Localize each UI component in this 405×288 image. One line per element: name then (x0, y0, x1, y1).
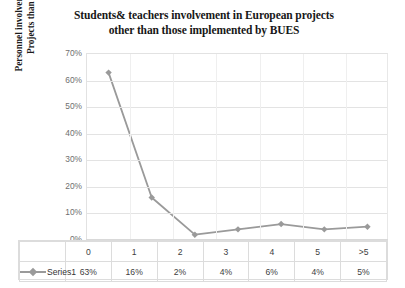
data-point-marker->5 (364, 224, 370, 230)
chart-data-table: 012345>5 Series1 63%16%2%4%6%4%5% (18, 240, 388, 280)
gridline-vertical (260, 54, 261, 239)
gridline-horizontal (87, 160, 387, 161)
y-tick-label-20: 20% (48, 181, 82, 191)
table-value-cell-4: 6% (249, 262, 295, 282)
gridline-horizontal (87, 107, 387, 108)
series-line-path (109, 73, 368, 235)
table-row-categories: 012345>5 (20, 242, 387, 262)
y-axis-title-line-2: Projects than those within BUES (25, 0, 37, 86)
gridline-vertical (216, 54, 217, 239)
table-value-cell-5: 4% (295, 262, 341, 282)
gridline-horizontal (87, 134, 387, 135)
gridline-horizontal (87, 213, 387, 214)
gridline-horizontal (87, 187, 387, 188)
gridline-vertical (130, 54, 131, 239)
data-point-marker-5 (321, 226, 327, 232)
legend-entry-series1: Series1 (20, 262, 66, 282)
legend-label-series1: Series1 (47, 267, 76, 277)
legend-line-marker-icon (20, 267, 46, 276)
table-category-cell-4: 4 (249, 242, 295, 262)
gridline-horizontal (87, 81, 387, 82)
y-tick-label-30: 30% (48, 154, 82, 164)
table-category-cell-6: >5 (341, 242, 387, 262)
chart-title: Students& teachers involvement in Europe… (38, 8, 370, 38)
y-tick-label-70: 70% (48, 48, 82, 58)
gridline-vertical (303, 54, 304, 239)
table-category-cell-3: 3 (203, 242, 249, 262)
series-line-series1 (87, 54, 389, 240)
table-value-cell-6: 5% (341, 262, 387, 282)
gridline-vertical (173, 54, 174, 239)
table-row-series1: Series1 63%16%2%4%6%4%5% (20, 262, 387, 282)
table-category-cell-0: 0 (65, 242, 111, 262)
y-tick-label-40: 40% (48, 128, 82, 138)
table-value-cell-1: 16% (111, 262, 157, 282)
chart-container: Students& teachers involvement in Europe… (0, 0, 405, 288)
chart-title-line-2: other than those implemented by BUES (38, 23, 370, 38)
chart-title-line-1: Students& teachers involvement in Europe… (74, 9, 334, 21)
data-point-marker-0 (105, 69, 111, 75)
table-value-cell-3: 4% (203, 262, 249, 282)
data-table-grid: 012345>5 Series1 63%16%2%4%6%4%5% (19, 241, 387, 282)
table-category-cell-5: 5 (295, 242, 341, 262)
data-point-marker-4 (278, 221, 284, 227)
plot-area (86, 53, 388, 239)
gridline-vertical (346, 54, 347, 239)
y-tick-label-50: 50% (48, 101, 82, 111)
table-corner-cell (20, 242, 66, 262)
y-tick-label-60: 60% (48, 75, 82, 85)
table-value-cell-2: 2% (157, 262, 203, 282)
data-point-marker-3 (235, 226, 241, 232)
table-category-cell-1: 1 (111, 242, 157, 262)
y-tick-label-10: 10% (48, 207, 82, 217)
y-axis-title-line-1: Personnel involvement in other European (13, 0, 25, 86)
table-category-cell-2: 2 (157, 242, 203, 262)
